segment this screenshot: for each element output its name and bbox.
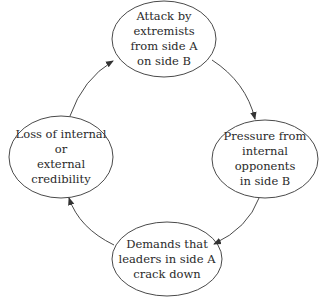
edge-loss-to-attack-arrow	[70, 61, 113, 116]
edge-attack-to-pressure-arrow	[212, 60, 255, 119]
node-attack-label: Attack by extremists from side A on side…	[112, 1, 216, 77]
edge-demands-to-loss-arrow	[69, 198, 114, 245]
cycle-diagram: Attack by extremists from side A on side…	[0, 0, 324, 300]
node-demands-label: Demands that leaders in side A crack dow…	[112, 222, 222, 296]
node-pressure-label: Pressure from internal opponents in side…	[212, 120, 318, 198]
node-loss-label: Loss of internal or external credibility	[9, 116, 113, 198]
